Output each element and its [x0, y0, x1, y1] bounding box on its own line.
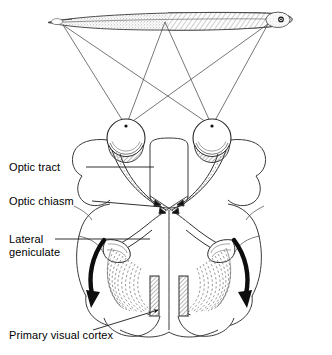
label-optic-chiasm: Optic chiasm [9, 195, 74, 208]
primary-visual-cortex-right [179, 276, 188, 316]
label-lateral-geniculate-line1: Lateral [9, 233, 43, 245]
label-optic-tract: Optic tract [9, 161, 60, 174]
left-nodal-point [124, 124, 127, 127]
label-lateral-geniculate-line2: geniculate [9, 246, 60, 259]
brain-outline [72, 138, 265, 337]
left-eye [107, 119, 145, 163]
figure-canvas [0, 0, 332, 355]
label-primary-visual-cortex: Primary visual cortex [9, 329, 113, 342]
visual-field-bar [48, 12, 292, 30]
visual-pathway-figure: Optic tract Optic chiasm Lateral genicul… [0, 0, 332, 355]
right-nodal-point [210, 124, 213, 127]
projection-rays [63, 22, 268, 126]
right-eye [193, 119, 231, 163]
label-lateral-geniculate: Lateral geniculate [9, 233, 60, 259]
